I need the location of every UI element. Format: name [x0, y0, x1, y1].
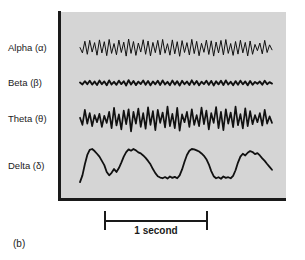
x-axis-line: [58, 198, 286, 201]
y-axis-line: [58, 11, 61, 201]
eeg-figure: Alpha (α) Beta (β) Theta (θ) Delta (δ) 1…: [0, 0, 305, 260]
trace-label-delta: Delta (δ): [8, 160, 58, 171]
trace-label-delta-text: Delta (δ): [8, 160, 44, 171]
trace-label-theta-text: Theta (θ): [8, 113, 47, 124]
trace-label-alpha: Alpha (α): [8, 42, 58, 53]
trace-label-alpha-text: Alpha (α): [8, 42, 47, 53]
trace-label-theta: Theta (θ): [8, 113, 58, 124]
figure-caption: (b): [13, 238, 25, 249]
trace-label-beta: Beta (β): [8, 77, 58, 88]
scale-bar-label: 1 second: [104, 225, 208, 236]
trace-label-beta-text: Beta (β): [8, 77, 42, 88]
plot-panel: [60, 12, 286, 199]
scale-bar-line: [104, 220, 208, 222]
time-scale-bar: 1 second: [104, 211, 208, 241]
